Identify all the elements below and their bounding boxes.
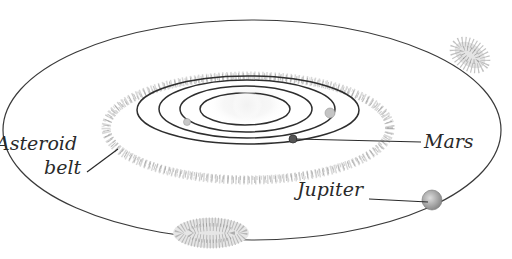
mars-leader-line: [296, 139, 421, 142]
jupiter-planet: [422, 190, 442, 210]
venus-dot: [184, 119, 191, 126]
solar-system-diagram: Asteroid belt Mars Jupiter: [0, 0, 512, 259]
asteroid-belt-label-line1: Asteroid: [0, 134, 77, 153]
asteroid-belt-leader-line: [87, 149, 118, 172]
jupiter-leader-line: [369, 199, 428, 202]
trojan-cluster-trailing: [173, 218, 249, 248]
jupiter-label: Jupiter: [297, 180, 363, 199]
mars-label: Mars: [424, 132, 474, 151]
trojan-cluster-leading: [450, 36, 490, 74]
mars-planet: [289, 135, 297, 143]
earth-dot: [325, 108, 335, 118]
asteroid-belt-label-line2: belt: [44, 158, 81, 177]
